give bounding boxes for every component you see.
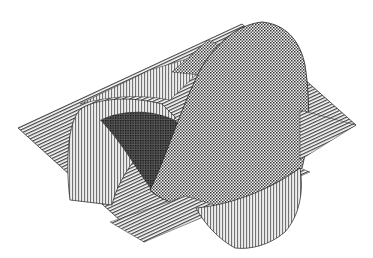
surface-plot [0,0,373,258]
